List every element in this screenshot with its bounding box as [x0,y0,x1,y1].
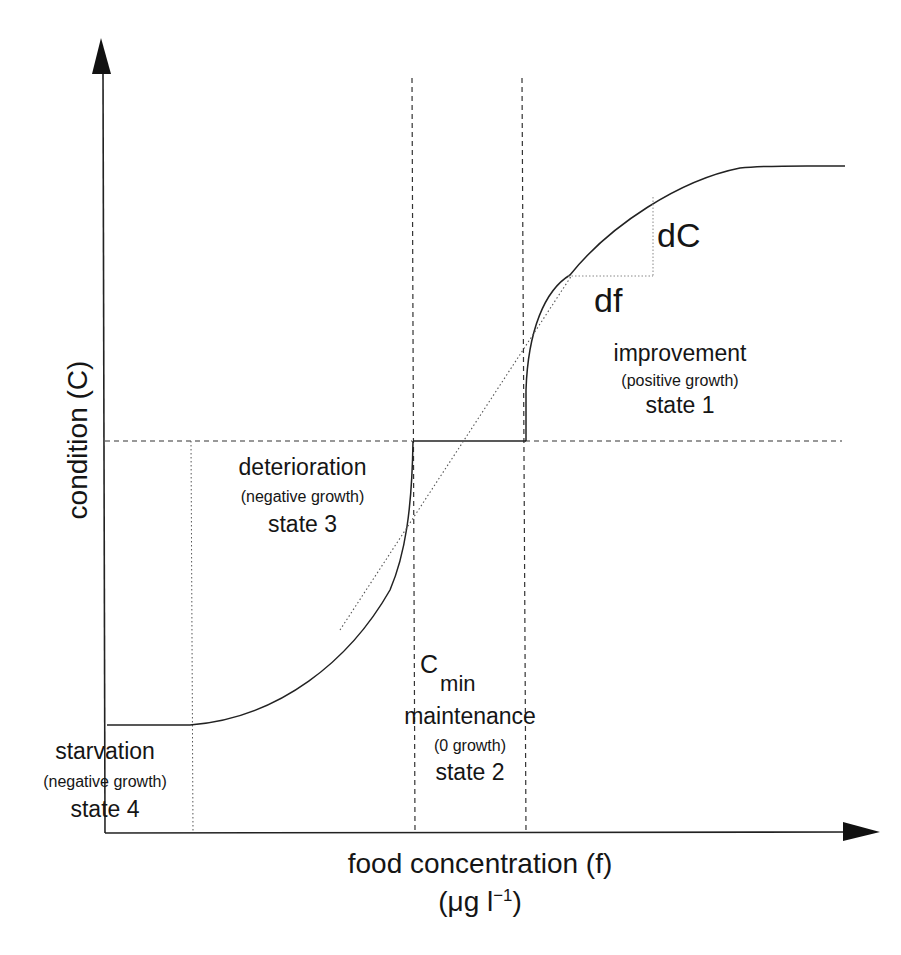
state3-state: state 3 [205,513,400,536]
df-label-text: df [594,281,622,319]
state2-title: maintenance [380,705,560,728]
y-axis-label-text: condition (C) [62,361,93,520]
state3-growth: (negative growth) [205,489,400,505]
state1-state: state 1 [600,394,760,417]
state2-state: state 2 [380,761,560,784]
x-axis-label: food concentration (f) [280,850,680,878]
y-axis-label: condition (C) [64,340,96,540]
cmin-subscript: min [440,671,475,696]
x-unit-prefix: (μg l [438,886,493,917]
state2-label: maintenance (0 growth) state 2 [380,705,560,784]
dc-label: dC [657,218,700,252]
cmin-label: Cmin [420,652,474,677]
x-axis-label-text: food concentration (f) [348,848,613,879]
state2-growth: (0 growth) [380,738,560,754]
x-axis-unit: (μg l−1) [380,888,580,916]
x-axis-arrow-icon [843,822,880,841]
x-axis [105,832,846,833]
state3-title: deterioration [205,456,400,479]
x-unit-exponent: −1 [493,886,512,905]
y-axis [103,72,105,833]
state4-state: state 4 [15,798,195,821]
cmin-symbol: C [420,650,438,678]
state4-growth: (negative growth) [15,774,195,790]
x-unit-suffix: ) [512,886,521,917]
state1-growth: (positive growth) [600,373,760,389]
df-label: df [594,283,622,317]
tangent-dotted-line [340,275,572,630]
y-axis-arrow-icon [92,38,111,74]
state3-label: deterioration (negative growth) state 3 [205,456,400,536]
dc-label-text: dC [657,216,700,254]
state4-title: starvation [15,740,195,763]
state1-title: improvement [600,342,760,365]
state4-label: starvation (negative growth) state 4 [15,740,195,821]
state1-label: improvement (positive growth) state 1 [600,342,760,417]
